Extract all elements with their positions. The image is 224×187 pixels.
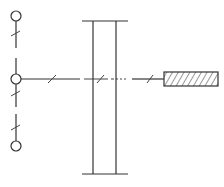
double-vertical-frame <box>82 21 128 174</box>
vertical-chain <box>11 11 21 151</box>
middle-terminal <box>11 74 21 84</box>
bottom-terminal <box>11 141 21 151</box>
schematic-diagram <box>0 0 224 187</box>
top-terminal <box>11 11 21 21</box>
hatched-block <box>164 72 218 86</box>
